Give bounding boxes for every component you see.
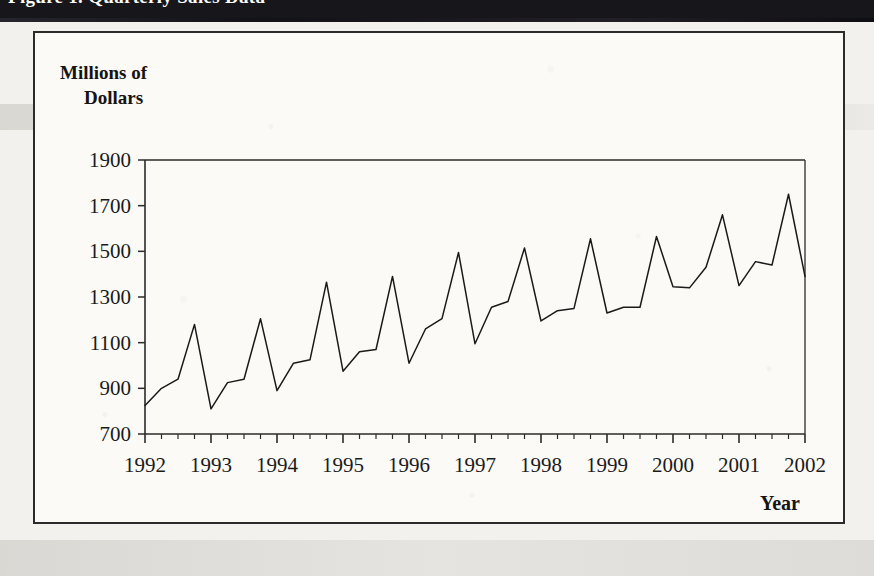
x-axis-label-group: 1992199319941995199619971998199920002001… [124,453,826,477]
y-axis-title-line1: Millions of [60,62,147,83]
x-axis-tick-label: 2001 [718,453,760,477]
y-axis-tick-label: 1100 [90,331,131,355]
x-axis-tick-group [145,434,805,443]
figure-title: Figure 1. Quarterly Sales Data [8,0,265,8]
x-axis-tick-label: 1994 [256,453,299,477]
x-axis-tick-label: 1997 [454,453,496,477]
x-axis-tick-label: 1995 [322,453,364,477]
x-axis-tick-label: 1993 [190,453,232,477]
y-axis-tick-label: 1900 [89,148,131,172]
x-axis-tick-label: 1999 [586,453,628,477]
y-axis-tick-group [138,160,145,434]
x-axis-tick-label: 2002 [784,453,826,477]
axis-lines [145,160,805,434]
x-axis-tick-label: 2000 [652,453,694,477]
y-axis-tick-label: 1700 [89,194,131,218]
x-axis-title: Year [760,492,800,515]
figure-title-bar: Figure 1. Quarterly Sales Data [0,0,874,22]
y-axis-tick-label: 1500 [89,239,131,263]
y-axis-title: Millions of Dollars [60,60,147,110]
y-axis-tick-label: 900 [100,376,132,400]
x-axis-tick-label: 1998 [520,453,562,477]
series-line-quarterly-sales [145,194,805,409]
y-axis-title-line2: Dollars [60,85,147,110]
x-axis-tick-label: 1992 [124,453,166,477]
y-axis-label-group: 70090011001300150017001900 [89,148,131,446]
y-axis-tick-label: 1300 [89,285,131,309]
y-axis-tick-label: 700 [100,422,132,446]
x-axis-tick-label: 1996 [388,453,430,477]
